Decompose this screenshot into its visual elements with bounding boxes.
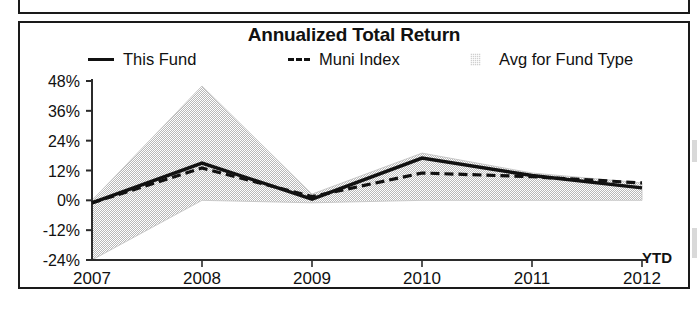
y-axis-tick-label: -12% [43, 222, 80, 239]
plot-area: 48%36%24%12%0%-12%-24% 20072008200920102… [20, 23, 688, 287]
y-axis-tick-label: 24% [48, 133, 80, 150]
x-axis-tick-label: 2011 [514, 269, 551, 287]
scan-artifact [692, 228, 697, 258]
x-axis-tick-labels: 200720082009201020112012 [73, 269, 661, 287]
y-axis-tick-label: 0% [57, 192, 80, 209]
x-axis-tick-label: 2009 [293, 269, 331, 287]
y-axis-tick-label: 12% [48, 163, 80, 180]
annualized-total-return-chart: 48%36%24%12%0%-12%-24% 20072008200920102… [20, 23, 688, 287]
x-axis-tick-label: 2007 [73, 269, 111, 287]
y-axis-tick-labels: 48%36%24%12%0%-12%-24% [43, 73, 80, 269]
y-axis-tick-label: 48% [48, 73, 80, 90]
x-axis-tick-label: 2008 [183, 269, 221, 287]
y-axis-tick-label: -24% [43, 252, 80, 269]
ytd-axis-note: YTD [642, 249, 672, 266]
preceding-panel-bottom-edge [18, 0, 690, 14]
scan-artifact [692, 140, 697, 162]
y-axis-tick-label: 36% [48, 103, 80, 120]
x-axis-tick-label: 2012 [623, 269, 661, 287]
x-axis-tick-label: 2010 [403, 269, 441, 287]
annualized-total-return-panel: Annualized Total Return This Fund Muni I… [18, 21, 690, 289]
